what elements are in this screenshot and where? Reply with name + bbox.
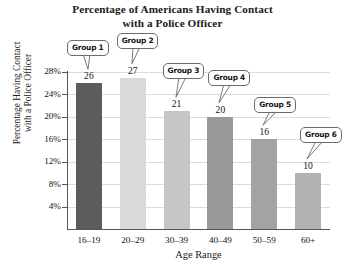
y-axis-tick-label: 12% [21,157,61,166]
y-axis-tick [62,117,67,118]
x-axis-line [67,229,330,230]
group-callout-label[interactable]: Group 1 [67,40,109,56]
y-axis-tick-label: 24% [21,90,61,99]
y-axis-tick [62,139,67,140]
y-axis-tick [62,72,67,73]
y-axis-tick-label: 16% [21,135,61,144]
group-callout-label[interactable]: Group 5 [254,97,296,113]
y-axis-tick-label: 28% [21,67,61,76]
x-axis-title: Age Range [67,250,330,260]
x-axis-tick-label: 60+ [284,236,332,245]
y-axis-tick-labels: 4%8%12%16%20%24%28% [16,0,61,267]
bar[interactable] [76,83,102,229]
bar[interactable] [251,139,277,229]
group-callout-label[interactable]: Group 2 [117,33,159,49]
group-callout-label[interactable]: Group 4 [208,70,250,86]
y-axis-tick [62,162,67,163]
chart-figure: Percentage of Americans Having Contact w… [0,0,345,267]
x-axis-tick-label: 50–59 [240,236,288,245]
group-callout-label[interactable]: Group 6 [300,127,342,143]
y-axis-tick-label: 4% [21,202,61,211]
bar[interactable] [207,117,233,229]
x-axis-tick-label: 40–49 [196,236,244,245]
x-axis-tick-label: 20–29 [109,236,157,245]
bar[interactable] [164,111,190,229]
y-axis-tick [62,184,67,185]
x-axis-tick-label: 16–19 [65,236,113,245]
x-axis-tick-label: 30–39 [153,236,201,245]
y-axis-tick-label: 8% [21,180,61,189]
bar[interactable] [120,78,146,229]
bar[interactable] [295,173,321,229]
y-axis-tick-label: 20% [21,112,61,121]
group-callout-label[interactable]: Group 3 [163,63,205,79]
y-axis-tick [62,207,67,208]
bar-series [67,72,330,229]
y-axis-tick [62,94,67,95]
